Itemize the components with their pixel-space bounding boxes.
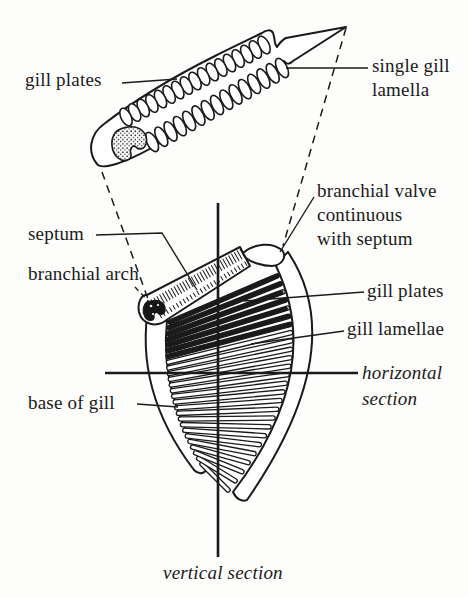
label-line: continuous [317,203,437,227]
label-line: lamella [372,78,450,102]
gill-diagram-figure: gill plates single gill lamella septum b… [0,0,468,597]
label-horizontal-section: horizontal section [362,360,442,412]
label-septum: septum [28,222,84,246]
leader-branchial-valve [280,197,314,252]
label-line: horizontal [362,360,442,386]
arch-speckle [152,313,154,315]
label-branchial-arch: branchial arch [28,262,139,286]
label-line: single gill [372,54,450,78]
horizontal-section-drawing [91,27,346,166]
arch-cross-section-stippled [112,127,147,161]
tooth-stroke [180,418,273,419]
label-line: section [362,386,442,412]
label-gill-plates-right: gill plates [367,279,444,303]
label-vertical-section: vertical section [163,560,283,586]
label-single-gill-lamella: single gill lamella [372,54,450,102]
label-line: branchial valve [317,179,437,203]
arch-speckle [157,304,159,306]
label-base-of-gill: base of gill [28,391,115,415]
tooth-stroke [178,409,276,413]
label-gill-lamellae: gill lamellae [347,317,444,341]
label-gill-plates-top: gill plates [25,68,102,92]
arch-speckle [150,305,153,308]
label-branchial-valve: branchial valve continuous with septum [317,179,437,251]
label-line: with septum [317,227,437,251]
